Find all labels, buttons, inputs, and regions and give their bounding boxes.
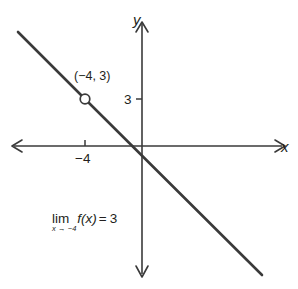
limit-expression: lim x → −4 f(x) = 3 xyxy=(52,212,117,226)
y-axis xyxy=(136,22,148,277)
y-axis-label: y xyxy=(133,12,141,27)
y-tick-label-3: 3 xyxy=(124,93,132,107)
x-tick-label-minus-4: −4 xyxy=(75,152,90,166)
point-coordinate-label: (−4, 3) xyxy=(74,70,110,83)
graph-canvas xyxy=(0,0,298,289)
limit-value: 3 xyxy=(107,212,118,226)
limit-operator: lim x → −4 xyxy=(52,212,70,226)
x-axis-label: x xyxy=(281,139,289,154)
function-line-right-branch xyxy=(89,103,262,275)
limit-subscript: x → −4 xyxy=(52,225,77,233)
open-circle-icon xyxy=(80,94,90,104)
limit-graph-figure: y x (−4, 3) 3 −4 lim x → −4 f(x) = 3 xyxy=(0,0,298,289)
function-line-left-branch xyxy=(18,32,81,95)
function-line xyxy=(18,32,262,275)
x-axis xyxy=(12,140,285,152)
limit-equals-sign: = xyxy=(97,212,107,226)
